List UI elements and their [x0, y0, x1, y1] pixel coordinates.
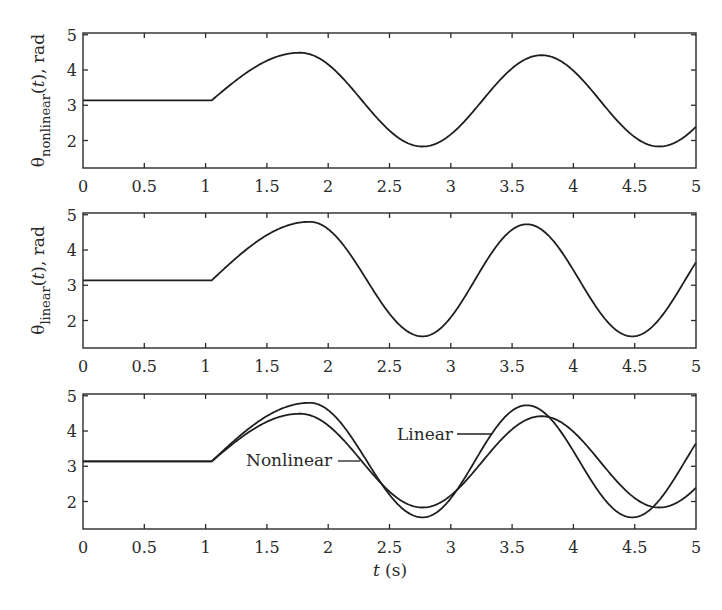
- x-tick-label: 3: [446, 538, 456, 557]
- x-tick-label: 5: [691, 357, 701, 376]
- x-tick-label: 2: [323, 538, 333, 557]
- x-tick-label: 2.5: [377, 357, 402, 376]
- y-tick-label: 5: [67, 26, 77, 45]
- x-tick-label: 0.5: [132, 177, 157, 196]
- x-tick-label: 5: [691, 177, 701, 196]
- x-tick-label: 4.5: [622, 177, 647, 196]
- x-tick-label: 0: [78, 538, 88, 557]
- x-tick-label: 1: [201, 538, 211, 557]
- y-tick-label: 4: [67, 241, 77, 260]
- x-tick-label: 0: [78, 357, 88, 376]
- x-tick-label: 3.5: [499, 538, 524, 557]
- x-tick-label: 3: [446, 357, 456, 376]
- x-tick-label: 3.5: [499, 177, 524, 196]
- annotation-linear-label: Linear: [397, 424, 454, 444]
- curve-linear: [83, 222, 696, 337]
- x-tick-label: 4: [568, 538, 578, 557]
- figure: 00.511.522.533.544.552345θnonlinear(t), …: [0, 0, 722, 610]
- x-tick-label: 2: [323, 357, 333, 376]
- x-tick-label: 1.5: [254, 538, 279, 557]
- y-tick-label: 2: [67, 312, 77, 331]
- x-tick-label: 4: [568, 357, 578, 376]
- annotation-nonlinear: Nonlinear: [246, 450, 360, 470]
- curve-linear: [83, 403, 696, 518]
- curve-nonlinear: [83, 53, 696, 147]
- y-tick-label: 4: [67, 422, 77, 441]
- y-tick-label: 2: [67, 493, 77, 512]
- x-tick-label: 1.5: [254, 357, 279, 376]
- x-tick-label: 2.5: [377, 177, 402, 196]
- x-tick-label: 0: [78, 177, 88, 196]
- x-tick-label: 3: [446, 177, 456, 196]
- annotation-nonlinear-label: Nonlinear: [246, 450, 333, 470]
- x-tick-label: 1: [201, 177, 211, 196]
- x-tick-label: 2.5: [377, 538, 402, 557]
- x-tick-label: 1.5: [254, 177, 279, 196]
- y-tick-label: 2: [67, 132, 77, 151]
- y-axis-label: θlinear(t), rad: [28, 226, 53, 335]
- panel-comparison: 00.511.522.533.544.552345: [67, 387, 701, 557]
- y-tick-label: 4: [67, 61, 77, 80]
- y-tick-label: 5: [67, 387, 77, 406]
- panel-nonlinear: 00.511.522.533.544.552345θnonlinear(t), …: [28, 26, 701, 196]
- y-tick-label: 5: [67, 206, 77, 225]
- y-tick-label: 3: [67, 457, 77, 476]
- x-tick-label: 5: [691, 538, 701, 557]
- x-axis-label: t (s): [373, 560, 407, 580]
- y-tick-label: 3: [67, 276, 77, 295]
- x-tick-label: 4.5: [622, 538, 647, 557]
- x-tick-label: 2: [323, 177, 333, 196]
- annotation-linear: Linear: [397, 424, 491, 444]
- x-tick-label: 0.5: [132, 357, 157, 376]
- x-tick-label: 4.5: [622, 357, 647, 376]
- y-axis-label: θnonlinear(t), rad: [28, 34, 53, 167]
- x-tick-label: 1: [201, 357, 211, 376]
- x-tick-label: 0.5: [132, 538, 157, 557]
- x-tick-label: 4: [568, 177, 578, 196]
- panel-linear: 00.511.522.533.544.552345θlinear(t), rad: [28, 206, 701, 376]
- y-tick-label: 3: [67, 96, 77, 115]
- x-tick-label: 3.5: [499, 357, 524, 376]
